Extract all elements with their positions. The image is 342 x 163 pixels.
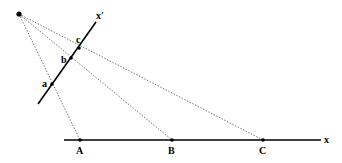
label-x: x xyxy=(324,134,329,145)
ray-to-A xyxy=(19,14,80,140)
center-point xyxy=(16,11,21,16)
point-b xyxy=(69,56,73,60)
point-a xyxy=(50,82,54,86)
line-x-prime xyxy=(38,22,96,104)
label-c: c xyxy=(76,34,81,45)
label-x-prime: x′ xyxy=(96,10,104,21)
label-a: a xyxy=(42,78,47,89)
ray-to-B xyxy=(19,14,172,140)
projection-diagram: A B C x a b c x′ xyxy=(0,0,342,163)
label-b: b xyxy=(61,54,67,65)
point-A xyxy=(78,138,82,142)
point-c xyxy=(77,46,81,50)
label-B: B xyxy=(168,145,175,156)
label-A: A xyxy=(76,145,84,156)
point-C xyxy=(261,138,265,142)
ray-to-C xyxy=(19,14,263,140)
label-C: C xyxy=(259,145,266,156)
point-B xyxy=(170,138,174,142)
